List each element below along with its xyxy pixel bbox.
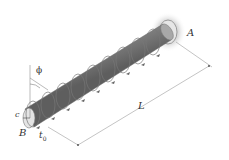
label-t0: t0: [39, 131, 46, 142]
label-B: B: [19, 128, 26, 138]
shaft-diagram: A B L c ϕ t0: [0, 0, 229, 160]
label-L: L: [138, 101, 145, 111]
label-t0-sub: 0: [43, 135, 47, 142]
phi-arc: [30, 84, 40, 88]
label-c: c: [15, 111, 19, 119]
diagram-graphics: [0, 0, 229, 160]
label-phi: ϕ: [36, 66, 42, 75]
shaft: [25, 24, 171, 127]
label-A: A: [187, 28, 194, 38]
